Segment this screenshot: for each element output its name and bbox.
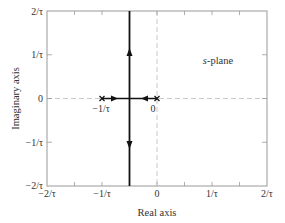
arrow-right-icon (111, 96, 118, 102)
x-tick-label: −1/τ (93, 188, 110, 199)
pole-label-origin: 0 (151, 103, 156, 114)
root-locus-chart: −2/τ −1/τ 0 1/τ 2/τ 2/τ 1/τ 0 −1/τ −2/τ … (0, 0, 285, 223)
y-tick-label: 1/τ (31, 49, 43, 60)
y-tick-label: 0 (38, 93, 43, 104)
y-tick-label: −2/τ (26, 180, 43, 191)
y-tick-label: −1/τ (26, 137, 43, 148)
y-axis-title: Imaginary axis (10, 67, 21, 130)
x-tick-label: 1/τ (206, 188, 218, 199)
arrow-left-icon (141, 96, 148, 102)
arrow-down-icon (127, 141, 133, 149)
s-plane-label: s-plane (203, 55, 234, 66)
arrow-up-icon (127, 48, 133, 56)
x-tick-label: 0 (155, 188, 160, 199)
pole-label-left: −1/τ (92, 103, 109, 114)
x-tick-label: 2/τ (261, 188, 273, 199)
y-tick-label: 2/τ (31, 6, 43, 17)
x-axis-title: Real axis (138, 207, 177, 218)
